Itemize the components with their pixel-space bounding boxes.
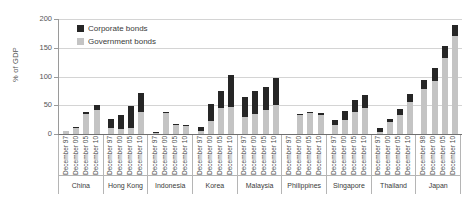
bar-segment-corporate bbox=[421, 80, 427, 89]
x-axis-group-philippines: December 97December 00December 05Decembe… bbox=[282, 135, 327, 194]
bar-segment-corporate bbox=[252, 91, 258, 114]
stacked-bar[interactable] bbox=[83, 112, 89, 134]
bar-segment-government bbox=[163, 113, 169, 134]
y-tick-label-0: 0 bbox=[26, 130, 52, 138]
bar-segment-corporate bbox=[263, 87, 269, 109]
bar-segment-government bbox=[73, 128, 79, 134]
bar-segment-government bbox=[318, 115, 324, 134]
x-axis-date-row: December 97December 00December 05Decembe… bbox=[193, 135, 237, 175]
x-axis-date-label: December 00 bbox=[73, 135, 80, 175]
x-axis-date-label: December 97 bbox=[331, 135, 338, 175]
stacked-bar[interactable] bbox=[228, 75, 234, 134]
stacked-bar[interactable] bbox=[432, 68, 438, 134]
x-axis-country-label: Korea bbox=[206, 182, 225, 189]
stacked-bar[interactable] bbox=[307, 112, 313, 134]
x-axis-date-label: December 97 bbox=[375, 135, 382, 175]
bar-segment-government bbox=[273, 105, 279, 134]
x-axis-country-row: Hong Kong bbox=[104, 175, 148, 194]
stacked-bar[interactable] bbox=[198, 127, 204, 134]
x-axis-date-label: December 97 bbox=[241, 135, 248, 175]
stacked-bar[interactable] bbox=[332, 120, 338, 134]
x-axis-country-row: Indonesia bbox=[148, 175, 192, 194]
x-axis-date-label: December 10 bbox=[405, 135, 412, 175]
bar-segment-government bbox=[332, 125, 338, 134]
bar-segment-government bbox=[208, 121, 214, 134]
stacked-bar[interactable] bbox=[421, 80, 427, 134]
stacked-bar[interactable] bbox=[362, 95, 368, 134]
bar-segment-corporate bbox=[273, 78, 279, 104]
legend-swatch-government-icon bbox=[77, 38, 84, 45]
stacked-bar[interactable] bbox=[108, 119, 114, 134]
bar-segment-government bbox=[138, 112, 144, 134]
stacked-bar[interactable] bbox=[163, 112, 169, 134]
legend-item-corporate-bonds: Corporate bonds bbox=[77, 24, 156, 33]
stacked-bar[interactable] bbox=[442, 46, 448, 134]
bar-segment-corporate bbox=[228, 75, 234, 107]
x-axis-date-label: December 00 bbox=[251, 135, 258, 175]
x-axis-date-row: December 98December 00December 05Decembe… bbox=[416, 135, 460, 175]
x-axis-date-row: December 97December 00December 05Decembe… bbox=[372, 135, 416, 175]
stacked-bar[interactable] bbox=[128, 106, 134, 134]
x-axis-country-row: Japan bbox=[416, 175, 460, 194]
x-axis-date-label: December 00 bbox=[385, 135, 392, 175]
stacked-bar[interactable] bbox=[183, 125, 189, 134]
stacked-bar[interactable] bbox=[318, 113, 324, 134]
stacked-bar[interactable] bbox=[63, 131, 69, 134]
stacked-bar[interactable] bbox=[452, 25, 458, 134]
x-axis-date-label: December 00 bbox=[207, 135, 214, 175]
x-axis-date-label: December 10 bbox=[137, 135, 144, 175]
bar-segment-government bbox=[228, 107, 234, 134]
x-axis-date-row: December 97December 00December 05Decembe… bbox=[238, 135, 282, 175]
stacked-bar[interactable] bbox=[73, 127, 79, 134]
x-axis-date-label: December 00 bbox=[430, 135, 437, 175]
stacked-bar[interactable] bbox=[218, 91, 224, 134]
x-axis-date-label: December 00 bbox=[341, 135, 348, 175]
x-axis-date-label: December 10 bbox=[361, 135, 368, 175]
stacked-bar[interactable] bbox=[173, 124, 179, 134]
x-axis-country-label: Singapore bbox=[333, 182, 365, 189]
bar-segment-government bbox=[252, 114, 258, 134]
stacked-bar[interactable] bbox=[407, 94, 413, 134]
x-axis-date-label: December 05 bbox=[351, 135, 358, 175]
x-axis-date-row: December 97December 00December 05Decembe… bbox=[148, 135, 192, 175]
stacked-bar[interactable] bbox=[263, 87, 269, 134]
stacked-bar[interactable] bbox=[397, 109, 403, 134]
stacked-bar[interactable] bbox=[242, 97, 248, 134]
stacked-bar[interactable] bbox=[94, 105, 100, 134]
x-axis-group-thailand: December 97December 00December 05Decembe… bbox=[372, 135, 417, 194]
chart-legend: Corporate bonds Government bonds bbox=[77, 24, 156, 50]
x-axis-country-label: Malaysia bbox=[246, 182, 274, 189]
stacked-bar[interactable] bbox=[153, 132, 159, 134]
bar-segment-government bbox=[63, 131, 69, 134]
stacked-bar[interactable] bbox=[208, 104, 214, 134]
bar-segment-government bbox=[153, 133, 159, 134]
stacked-bar[interactable] bbox=[387, 119, 393, 135]
stacked-bar[interactable] bbox=[118, 115, 124, 134]
x-axis-date-label: December 00 bbox=[117, 135, 124, 175]
stacked-bar[interactable] bbox=[297, 114, 303, 134]
bar-segment-corporate bbox=[362, 95, 368, 108]
bar-segment-corporate bbox=[352, 100, 358, 112]
bar-segment-government bbox=[421, 89, 427, 134]
stacked-bar[interactable] bbox=[342, 111, 348, 134]
x-axis-date-label: December 00 bbox=[162, 135, 169, 175]
bar-segment-corporate bbox=[242, 97, 248, 117]
bar-segment-corporate bbox=[138, 93, 144, 113]
bar-segment-government bbox=[263, 110, 269, 134]
bar-segment-corporate bbox=[208, 104, 214, 121]
stacked-bar[interactable] bbox=[352, 100, 358, 134]
x-axis-date-label: December 97 bbox=[152, 135, 159, 175]
x-axis-group-malaysia: December 97December 00December 05Decembe… bbox=[238, 135, 283, 194]
x-axis-date-label: December 05 bbox=[172, 135, 179, 175]
y-tick-label-50: 50 bbox=[26, 101, 52, 109]
bar-segment-government bbox=[397, 115, 403, 134]
stacked-bar[interactable] bbox=[138, 93, 144, 134]
stacked-bar[interactable] bbox=[377, 128, 383, 134]
x-axis-date-label: December 97 bbox=[63, 135, 70, 175]
y-tick-label-150: 150 bbox=[26, 44, 52, 52]
legend-label-government-bonds: Government bonds bbox=[88, 37, 156, 46]
stacked-bar[interactable] bbox=[252, 91, 258, 134]
legend-swatch-corporate-icon bbox=[77, 25, 84, 32]
stacked-bar[interactable] bbox=[273, 78, 279, 134]
x-axis-country-row: Philippines bbox=[282, 175, 326, 194]
